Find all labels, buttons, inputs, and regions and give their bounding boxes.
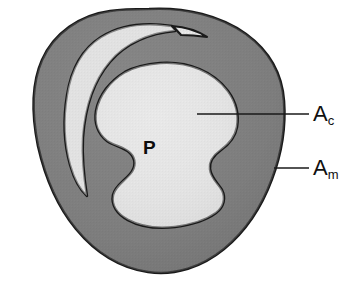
figure-container: P Ac Am bbox=[0, 0, 359, 287]
area-media-label: Am bbox=[313, 157, 339, 179]
area-core-label: Ac bbox=[313, 103, 334, 125]
area-media-label-subscript: m bbox=[328, 167, 339, 182]
plaque-label: P bbox=[143, 138, 156, 157]
vessel-cross-section-illustration bbox=[0, 0, 359, 287]
area-media-label-base: A bbox=[313, 155, 328, 180]
plaque-core-area bbox=[95, 63, 237, 228]
area-core-label-subscript: c bbox=[328, 113, 335, 128]
area-core-label-base: A bbox=[313, 101, 328, 126]
